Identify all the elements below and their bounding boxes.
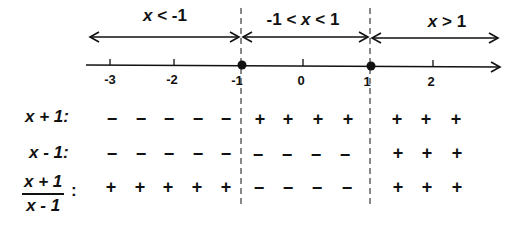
tick-label: 1 bbox=[363, 74, 370, 89]
row-label-x-plus-1: x + 1: bbox=[25, 107, 69, 127]
tick-label: 0 bbox=[297, 73, 304, 88]
tick-label: 2 bbox=[427, 74, 434, 89]
row-label-quotient: x + 1 x - 1 bbox=[22, 172, 64, 216]
tick-label: -1 bbox=[231, 73, 243, 88]
interval-label-middle: -1 < x < 1 bbox=[267, 10, 340, 30]
critical-point-neg1 bbox=[238, 61, 247, 70]
row-label-x-minus-1: x - 1: bbox=[29, 143, 69, 163]
tick-label: -2 bbox=[166, 72, 178, 87]
row-label-colon: : bbox=[71, 181, 77, 201]
tick-label: -3 bbox=[104, 72, 116, 87]
number-line bbox=[86, 65, 500, 67]
interval-label-right: x > 1 bbox=[428, 12, 466, 32]
critical-point-1 bbox=[367, 62, 376, 71]
interval-label-left: x < -1 bbox=[143, 6, 187, 26]
